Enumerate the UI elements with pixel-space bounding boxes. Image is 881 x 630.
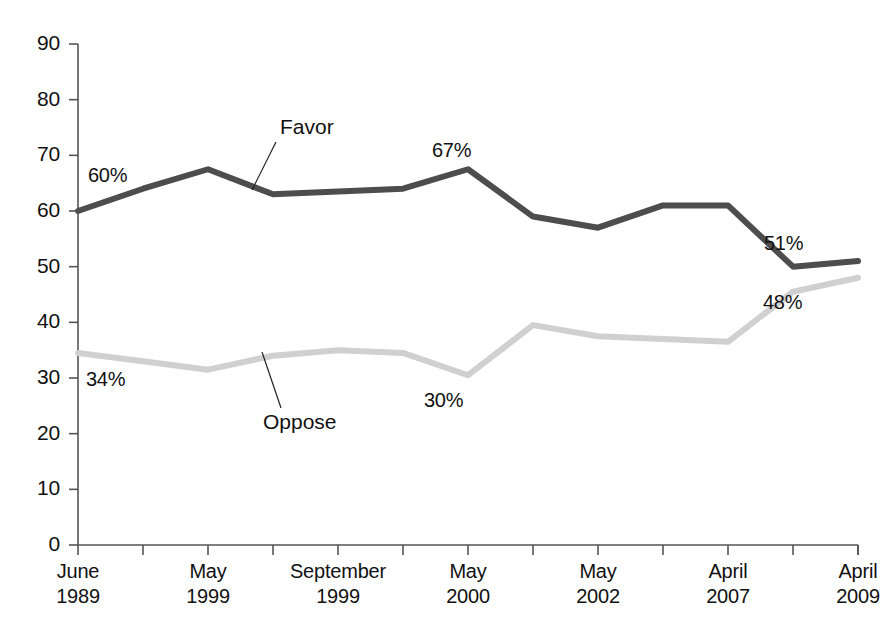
chart-axes (69, 44, 858, 555)
x-axis-label: May1999 (138, 559, 278, 609)
x-axis-label: April2007 (658, 559, 798, 609)
data-value-label: 60% (88, 164, 127, 187)
data-value-label: 48% (763, 291, 802, 314)
x-axis-label-year: 2002 (528, 584, 668, 609)
series-label-favor: Favor (280, 115, 334, 139)
x-axis-label-year: 1999 (268, 584, 408, 609)
y-axis-label: 50 (20, 254, 60, 278)
x-axis-label: September1999 (268, 559, 408, 609)
callout-leader-oppose (262, 352, 281, 408)
y-axis-label: 10 (20, 476, 60, 500)
x-axis-label-month: May (138, 559, 278, 584)
x-axis-label-year: 2007 (658, 584, 798, 609)
chart-series (78, 169, 858, 375)
data-value-label: 30% (424, 389, 463, 412)
x-axis-label: April2009 (788, 559, 881, 609)
x-axis-label: May2002 (528, 559, 668, 609)
data-value-label: 51% (764, 232, 803, 255)
x-axis-label: May2000 (398, 559, 538, 609)
series-line-oppose (78, 278, 858, 375)
chart-callout-leaders (252, 142, 281, 408)
y-axis-label: 60 (20, 198, 60, 222)
x-axis-label: June1989 (8, 559, 148, 609)
y-axis-label: 20 (20, 421, 60, 445)
x-axis-label-year: 1989 (8, 584, 148, 609)
y-axis-label: 40 (20, 309, 60, 333)
x-axis-label-month: September (268, 559, 408, 584)
series-line-favor (78, 169, 858, 266)
x-axis-label-month: April (658, 559, 798, 584)
data-value-label: 34% (86, 368, 125, 391)
x-axis-label-month: June (8, 559, 148, 584)
y-axis-label: 80 (20, 87, 60, 111)
y-axis-label: 90 (20, 31, 60, 55)
data-value-label: 67% (432, 139, 471, 162)
x-axis-label-month: May (528, 559, 668, 584)
callout-leader-favor (252, 142, 276, 190)
x-axis-label-month: April (788, 559, 881, 584)
line-chart: 0102030405060708090 June1989May1999Septe… (0, 0, 881, 630)
x-axis-label-month: May (398, 559, 538, 584)
series-label-oppose: Oppose (263, 410, 337, 434)
y-axis-label: 70 (20, 142, 60, 166)
y-axis-label: 30 (20, 365, 60, 389)
x-axis-label-year: 2000 (398, 584, 538, 609)
x-axis-label-year: 2009 (788, 584, 881, 609)
x-axis-label-year: 1999 (138, 584, 278, 609)
chart-plot-area (0, 0, 881, 630)
y-axis-label: 0 (20, 532, 60, 556)
